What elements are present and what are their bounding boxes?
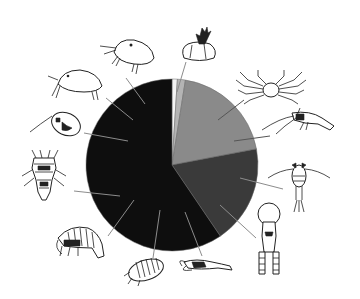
barnacle-icon [183, 27, 216, 61]
crab-icon [236, 70, 306, 104]
pie-chart [0, 0, 360, 299]
copepod-larva-icon [258, 203, 280, 274]
ostracod-a-icon [48, 70, 102, 100]
ostracod-b-icon [100, 40, 154, 74]
pie-slices [86, 79, 258, 251]
isopod-icon [124, 255, 166, 286]
cladoceran-icon [30, 108, 84, 141]
harpacticoid-icon [22, 150, 66, 200]
shrimp-icon [262, 108, 334, 134]
amphipod-icon [57, 227, 104, 258]
pie-chart-figure [0, 0, 360, 299]
mysid-shrimp-icon [180, 260, 232, 271]
